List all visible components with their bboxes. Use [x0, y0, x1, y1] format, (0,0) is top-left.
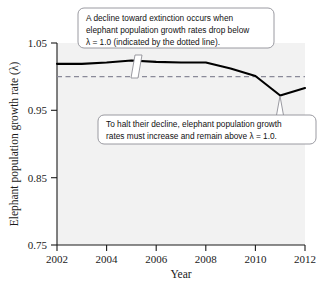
- callout-halt-line-1: To halt their decline, elephant populati…: [106, 119, 282, 129]
- y-tick-label-2: 0.95: [28, 104, 48, 116]
- x-tick-label-2012: 2012: [294, 253, 316, 265]
- callout-decline-line-1: A decline toward extinction occurs when: [86, 13, 234, 23]
- x-tick-label-2004: 2004: [96, 253, 119, 265]
- callout-decline-line-3: λ = 1.0 (indicated by the dotted line).: [86, 37, 220, 47]
- y-tick-label-4: 0.75: [28, 239, 48, 251]
- y-tick-label-1: 1.05: [28, 37, 48, 49]
- callout-halt-line-2: rates must increase and remain above λ =…: [106, 131, 277, 141]
- growth-rate-line-chart: 1.05 0.95 0.85 0.75 2002 2004 2006 2008 …: [0, 0, 330, 289]
- x-tick-label-2002: 2002: [46, 253, 68, 265]
- callout-decline-line-2: elephant population growth rates drop be…: [86, 25, 250, 35]
- x-tick-label-2006: 2006: [145, 253, 168, 265]
- figure-caption: [0, 273, 330, 289]
- x-axis-ticks: [57, 245, 305, 251]
- y-axis-ticks: [51, 43, 57, 245]
- x-tick-label-2010: 2010: [244, 253, 267, 265]
- figure-container: 1.05 0.95 0.85 0.75 2002 2004 2006 2008 …: [0, 0, 330, 289]
- y-tick-label-3: 0.85: [28, 172, 48, 184]
- y-axis-title: Elephant population growth rate (λ): [8, 62, 21, 227]
- x-tick-label-2008: 2008: [195, 253, 218, 265]
